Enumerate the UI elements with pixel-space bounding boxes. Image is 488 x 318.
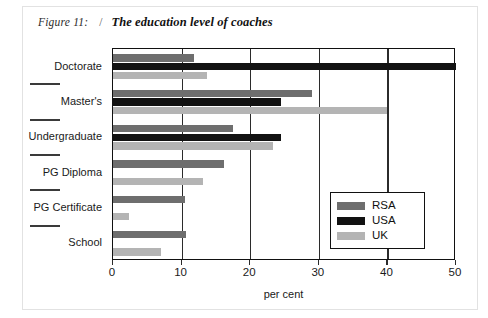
bar-group bbox=[113, 155, 454, 190]
bar-uk bbox=[113, 142, 273, 149]
x-tick-mark bbox=[181, 260, 182, 265]
x-axis-title: per cent bbox=[112, 288, 455, 300]
x-tick-mark bbox=[386, 260, 387, 265]
legend-swatch bbox=[337, 217, 365, 225]
x-tick-mark bbox=[112, 260, 113, 265]
figure-page: Figure 11: / The education level of coac… bbox=[0, 0, 488, 318]
x-tick-label: 50 bbox=[449, 266, 462, 278]
legend-swatch bbox=[337, 202, 365, 210]
bar-usa bbox=[113, 98, 281, 105]
bar-rsa bbox=[113, 160, 224, 167]
y-axis-label: Doctorate bbox=[54, 60, 102, 72]
legend-swatch bbox=[337, 232, 365, 240]
bar-group bbox=[113, 84, 454, 119]
x-tick-mark bbox=[318, 260, 319, 265]
x-tick-mark bbox=[249, 260, 250, 265]
bar-uk bbox=[113, 107, 387, 114]
legend-label: UK bbox=[372, 230, 388, 242]
bar-usa bbox=[113, 134, 281, 141]
x-tick-label: 40 bbox=[380, 266, 393, 278]
y-axis-tick bbox=[30, 119, 60, 121]
bar-rsa bbox=[113, 125, 233, 132]
bar-chart: DoctorateMaster'sUndergraduatePG Diploma… bbox=[0, 0, 488, 318]
bar-group bbox=[113, 49, 454, 84]
legend-item: USA bbox=[337, 213, 418, 228]
legend-label: USA bbox=[372, 215, 396, 227]
x-axis-ticks: 01020304050 bbox=[112, 260, 455, 290]
bar-rsa bbox=[113, 196, 185, 203]
legend-item: RSA bbox=[337, 198, 418, 213]
x-tick-mark bbox=[455, 260, 456, 265]
x-tick-label: 20 bbox=[243, 266, 256, 278]
bar-rsa bbox=[113, 90, 312, 97]
bar-uk bbox=[113, 72, 207, 79]
legend-label: RSA bbox=[372, 200, 396, 212]
y-axis-label: PG Certificate bbox=[34, 201, 102, 213]
y-axis-tick bbox=[30, 225, 60, 227]
chart-legend: RSAUSAUK bbox=[330, 192, 425, 249]
y-axis-label: PG Diploma bbox=[43, 166, 102, 178]
bar-rsa bbox=[113, 231, 186, 238]
y-axis-tick bbox=[30, 189, 60, 191]
legend-item: UK bbox=[337, 228, 418, 243]
bar-uk bbox=[113, 178, 203, 185]
bar-rsa bbox=[113, 54, 194, 61]
x-tick-label: 0 bbox=[109, 266, 115, 278]
y-axis-tick bbox=[30, 154, 60, 156]
y-axis-label: Undergraduate bbox=[29, 130, 102, 142]
x-tick-label: 30 bbox=[311, 266, 324, 278]
x-tick-label: 10 bbox=[174, 266, 187, 278]
bar-uk bbox=[113, 213, 129, 220]
bar-group bbox=[113, 120, 454, 155]
bar-usa bbox=[113, 63, 456, 70]
y-axis-tick bbox=[30, 83, 60, 85]
bar-uk bbox=[113, 248, 161, 255]
y-axis-label: Master's bbox=[61, 95, 102, 107]
y-axis-labels: DoctorateMaster'sUndergraduatePG Diploma… bbox=[0, 48, 108, 260]
y-axis-label: School bbox=[68, 236, 102, 248]
